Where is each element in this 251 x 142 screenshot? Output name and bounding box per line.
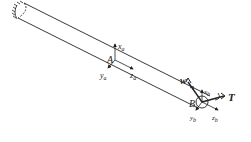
fixed-support-hatching <box>12 1 23 19</box>
shaft-diagram: A xa ya za B xb yb zb w T <box>0 0 251 142</box>
axis-yb-label: yb <box>189 114 196 123</box>
axis-xa-label: xa <box>117 42 125 52</box>
load-w-label: w <box>180 75 187 86</box>
shaft-end-ellipse <box>18 3 26 18</box>
axis-za-label: za <box>129 71 136 81</box>
axis-yb-arrow <box>196 102 202 110</box>
shaft-body <box>18 3 210 108</box>
axis-ya-label: ya <box>99 71 107 81</box>
point-a-label: A <box>106 54 114 65</box>
axis-xb-label: xb <box>203 88 210 97</box>
axis-zb-label: zb <box>211 114 218 123</box>
point-b-label: B <box>189 98 195 109</box>
axis-zb-arrow <box>202 102 218 110</box>
torque-t-label: T <box>228 91 236 103</box>
